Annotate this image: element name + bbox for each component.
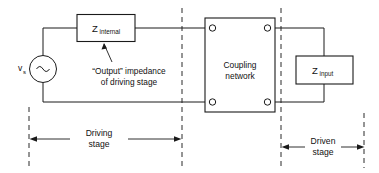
output-impedance-note-line2: of driving stage <box>101 77 158 87</box>
coupling-network-label-line2: network <box>225 71 255 81</box>
output-impedance-note-line1: “Output” impedance <box>92 66 166 76</box>
arrowhead-driven-right <box>357 144 365 150</box>
driving-stage-label-line2: stage <box>88 139 109 149</box>
arrowhead-driven-left <box>282 144 290 150</box>
annotation-arrowhead <box>102 43 108 50</box>
circuit-diagram: Z internal v s “Output” impedance of dri… <box>0 0 379 173</box>
coupling-network-label-line1: Coupling <box>223 60 256 70</box>
zinternal-subscript: internal <box>100 28 121 35</box>
driven-stage-label-line1: Driven <box>311 136 336 146</box>
terminal-coupling-top-left <box>209 25 215 31</box>
wire-source-to-zinternal <box>43 28 77 55</box>
wire-coupling-to-zinput-bottom <box>275 84 324 102</box>
driven-stage-label-line2: stage <box>312 147 333 157</box>
zinput-label: Z <box>312 65 318 76</box>
driving-stage-label-line1: Driving <box>86 128 113 138</box>
zinput-subscript: input <box>320 70 334 78</box>
circuit-canvas: Z internal v s “Output” impedance of dri… <box>0 0 379 173</box>
zinternal-label: Z <box>92 23 98 34</box>
voltage-source-subscript: s <box>23 69 26 75</box>
terminal-coupling-bottom-left <box>209 99 215 105</box>
arrowhead-driving-left <box>30 136 38 142</box>
wire-coupling-to-zinput-top <box>275 28 324 56</box>
terminal-coupling-bottom-right <box>264 99 270 105</box>
terminal-coupling-top-right <box>264 25 270 31</box>
arrowhead-driving-right <box>174 136 182 142</box>
